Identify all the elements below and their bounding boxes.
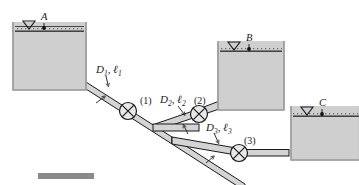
reservoir-c: C: [291, 97, 359, 160]
pipe-3-body: [172, 137, 289, 185]
bottom-accent-bar: [38, 173, 94, 179]
svg-text:D1, ℓ1: D1, ℓ1: [95, 63, 122, 78]
pipe-3-length-subscript: 3: [227, 127, 232, 136]
pipe-2-label: D2, ℓ2: [159, 93, 186, 108]
pipe-1-length-subscript: 1: [118, 69, 122, 78]
diagram-canvas: A B C (1): [0, 0, 359, 185]
pipe-1-label: D1, ℓ1: [95, 63, 122, 78]
pipe-network-figure: A B C (1): [0, 0, 359, 185]
valve-2-label: (2): [194, 95, 206, 107]
valve-2[interactable]: (2): [191, 95, 208, 123]
reservoir-c-water-surface: [293, 112, 359, 118]
reservoir-b: B: [218, 32, 284, 110]
pipe-3-diameter-symbol: D: [205, 121, 214, 133]
pipe-2-length-subscript: 2: [182, 99, 186, 108]
reservoir-b-label: B: [246, 32, 253, 43]
valve-3-label: (3): [244, 135, 256, 147]
valve-3[interactable]: (3): [231, 135, 256, 162]
reservoir-a-water-surface: [15, 26, 84, 32]
valve-1-label: (1): [140, 95, 152, 107]
valve-1[interactable]: (1): [120, 95, 152, 120]
svg-text:D2, ℓ2: D2, ℓ2: [159, 93, 186, 108]
reservoir-a: A: [13, 11, 86, 90]
svg-text:D3, ℓ3: D3, ℓ3: [205, 121, 232, 136]
reservoir-a-label: A: [40, 11, 48, 22]
pipe-2-diameter-symbol: D: [159, 93, 168, 105]
reservoir-c-label: C: [319, 97, 327, 108]
pipe-1-diameter-symbol: D: [95, 63, 104, 75]
pipe-3-label: D3, ℓ3: [205, 121, 232, 136]
reservoir-b-water-surface: [220, 47, 282, 53]
